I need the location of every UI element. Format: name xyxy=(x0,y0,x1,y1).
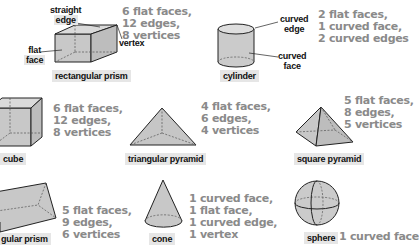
shape-label-sphere: sphere xyxy=(304,232,338,244)
shape-properties-sphere: 1 curved face xyxy=(339,231,419,243)
